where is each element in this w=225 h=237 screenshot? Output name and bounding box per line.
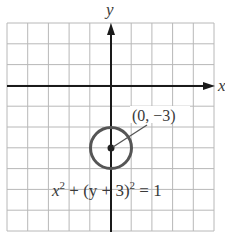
point-label: (0, −3) <box>132 107 176 125</box>
y-axis-arrow-icon <box>107 23 115 35</box>
x-axis-label: x <box>217 76 225 95</box>
coordinate-plane: x y (0, −3) x2 + (y + 3)2 = 1 <box>0 0 225 237</box>
circle-graph-figure: x y (0, −3) x2 + (y + 3)2 = 1 <box>0 0 225 237</box>
center-point <box>108 145 115 152</box>
equation-tail: = 1 <box>135 181 162 200</box>
y-axis-label: y <box>104 0 114 19</box>
x-axis-arrow-icon <box>203 82 215 90</box>
equation-mid: + (y + 3) <box>65 181 130 200</box>
equation-label: x2 + (y + 3)2 = 1 <box>51 179 162 200</box>
